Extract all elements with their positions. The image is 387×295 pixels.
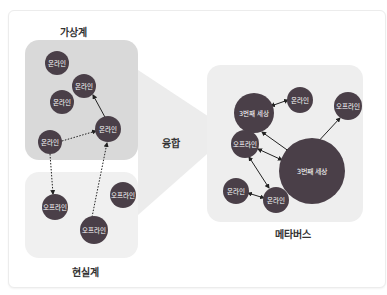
online-node: 온라인 — [287, 87, 313, 113]
online-node: 온라인 — [263, 187, 289, 213]
offline-node: 오프라인 — [334, 92, 362, 120]
online-node: 온라인 — [38, 130, 62, 154]
offline-node: 오프라인 — [231, 130, 259, 158]
offline-node: 오프라인 — [80, 216, 108, 244]
online-node: 온라인 — [50, 90, 74, 114]
online-node: 온라인 — [72, 74, 96, 98]
third-world-node: 3번째 세상 — [279, 138, 345, 204]
online-node: 온라인 — [95, 116, 121, 142]
offline-node: 오프라인 — [110, 182, 136, 208]
third-world-node: 3번째 세상 — [234, 93, 274, 133]
online-node: 온라인 — [45, 51, 69, 75]
offline-node: 오프라인 — [42, 194, 68, 220]
online-node: 온라인 — [223, 178, 249, 204]
